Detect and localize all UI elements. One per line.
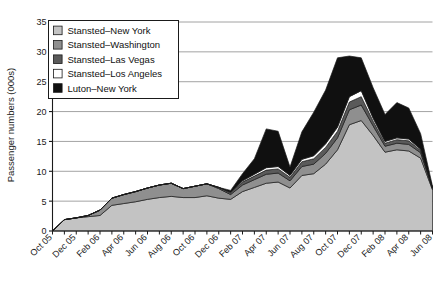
x-tick-label: Jun 06 <box>123 232 149 258</box>
y-axis-title-group: Passenger numbers (000s) <box>5 68 16 183</box>
x-tick-label: Feb 08 <box>360 232 387 259</box>
y-tick-label: 5 <box>41 197 46 207</box>
y-tick-label: 35 <box>36 17 46 27</box>
x-tick-label: Dec 06 <box>193 232 220 259</box>
x-tick-label: Apr 07 <box>242 232 268 258</box>
legend-label-3: Stansted–Los Angeles <box>68 68 163 79</box>
x-tick-label: Feb 07 <box>217 232 244 259</box>
legend-swatch-1 <box>54 41 63 50</box>
stacked-area-chart: 05101520253035 Oct 05Dec 05Feb 06Apr 06J… <box>0 0 444 290</box>
x-tick-label: Aug 07 <box>288 232 315 259</box>
legend: Stansted–New YorkStansted–WashingtonStan… <box>49 21 179 99</box>
x-tick-label: Dec 07 <box>335 232 362 259</box>
y-tick-label: 10 <box>36 167 46 177</box>
chart-canvas: 05101520253035 Oct 05Dec 05Feb 06Apr 06J… <box>0 0 444 290</box>
legend-label-4: Luton–New York <box>68 83 137 94</box>
y-tick-label: 15 <box>36 137 46 147</box>
y-tick-label: 20 <box>36 107 46 117</box>
legend-label-1: Stansted–Washington <box>68 39 161 50</box>
x-tick-label: Oct 06 <box>171 232 197 258</box>
y-tick-label: 30 <box>36 47 46 57</box>
legend-swatch-3 <box>54 69 63 78</box>
legend-label-0: Stansted–New York <box>68 25 151 36</box>
y-tick-label: 25 <box>36 77 46 87</box>
x-tick-label: Apr 06 <box>99 232 125 258</box>
x-tick-label: Jun 07 <box>265 232 291 258</box>
x-tick-labels: Oct 05Dec 05Feb 06Apr 06Jun 06Aug 06Oct … <box>28 232 434 259</box>
x-tick-label: Feb 06 <box>75 232 102 259</box>
legend-swatch-2 <box>54 55 63 64</box>
x-tick-label: Oct 07 <box>313 232 339 258</box>
x-tick-label: Aug 06 <box>145 232 172 259</box>
x-tick-label: Dec 05 <box>50 232 77 259</box>
x-tick-label: Jun 08 <box>408 232 434 258</box>
y-tick-labels: 05101520253035 <box>36 17 46 236</box>
x-tick-label: Apr 08 <box>384 232 410 258</box>
y-axis-title: Passenger numbers (000s) <box>5 68 16 183</box>
legend-label-2: Stansted–Las Vegas <box>68 54 155 65</box>
legend-swatch-4 <box>54 84 63 93</box>
legend-swatch-0 <box>54 26 63 35</box>
